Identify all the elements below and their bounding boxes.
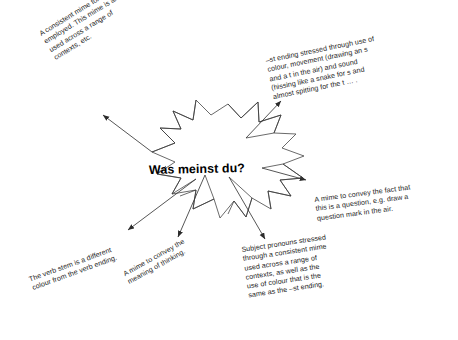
center-label: Was meinst du? <box>149 161 245 177</box>
diagram-canvas: Was meinst du? A consistent mime for was… <box>0 0 458 340</box>
starburst-shape <box>152 100 304 218</box>
arrow-to-top-left <box>103 115 152 152</box>
arrow-to-bottom-left <box>128 179 196 230</box>
